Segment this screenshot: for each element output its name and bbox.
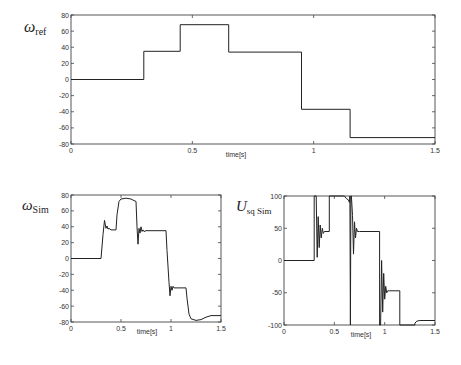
y-tick-label: -80 bbox=[59, 319, 69, 326]
y-axis-label: ωref bbox=[24, 18, 47, 37]
y-tick-label: 40 bbox=[61, 44, 69, 51]
omega-ref-chart: 806040200-20-40-60-8000.511.5time[s]ωref bbox=[24, 12, 440, 160]
figure: 806040200-20-40-60-8000.511.5time[s]ωref… bbox=[0, 0, 461, 365]
y-tick-label: -80 bbox=[59, 141, 69, 148]
y-axis-label: Usq Sim bbox=[236, 198, 272, 216]
y-tick-label: 100 bbox=[270, 193, 282, 200]
y-tick-label: -60 bbox=[59, 124, 69, 131]
x-tick-label: 0.5 bbox=[187, 147, 197, 154]
y-tick-label: -20 bbox=[59, 92, 69, 99]
x-tick-label: 0 bbox=[282, 328, 286, 335]
x-tick-label: 0.5 bbox=[329, 328, 339, 335]
omega-sim-chart: 806040200-20-40-60-8000.511.5time[s]ωSim bbox=[22, 192, 226, 337]
y-tick-label: -40 bbox=[59, 287, 69, 294]
y-tick-label: -50 bbox=[272, 289, 282, 296]
y-tick-label: 80 bbox=[61, 192, 69, 199]
x-tick-label: 1 bbox=[312, 147, 316, 154]
y-tick-label: -20 bbox=[59, 271, 69, 278]
x-tick-label: 1.5 bbox=[216, 325, 226, 332]
y-tick-label: 0 bbox=[65, 255, 69, 262]
x-tick-label: 1.5 bbox=[430, 147, 440, 154]
x-axis-label: time[s] bbox=[351, 331, 372, 339]
y-tick-label: 20 bbox=[61, 239, 69, 246]
y-tick-label: 60 bbox=[61, 207, 69, 214]
x-tick-label: 1 bbox=[169, 325, 173, 332]
y-tick-label: 20 bbox=[61, 60, 69, 67]
y-tick-label: 60 bbox=[61, 28, 69, 35]
y-tick-label: -40 bbox=[59, 108, 69, 115]
x-tick-label: 0 bbox=[69, 147, 73, 154]
y-tick-label: 0 bbox=[278, 257, 282, 264]
y-tick-label: 80 bbox=[61, 12, 69, 19]
x-tick-label: 1.5 bbox=[430, 328, 440, 335]
y-tick-label: 50 bbox=[274, 225, 282, 232]
x-axis-label: time[s] bbox=[226, 151, 247, 159]
x-tick-label: 0 bbox=[69, 325, 73, 332]
y-tick-label: 0 bbox=[65, 76, 69, 83]
y-axis-label: ωSim bbox=[22, 197, 49, 215]
usq-sim-chart: 100500-50-10000.511.5time[s]Usq Sim bbox=[236, 193, 440, 340]
x-tick-label: 1 bbox=[383, 328, 387, 335]
y-tick-label: 40 bbox=[61, 223, 69, 230]
y-tick-label: -100 bbox=[268, 322, 282, 329]
x-tick-label: 0.5 bbox=[116, 325, 126, 332]
y-tick-label: -60 bbox=[59, 303, 69, 310]
x-axis-label: time[s] bbox=[137, 328, 158, 336]
